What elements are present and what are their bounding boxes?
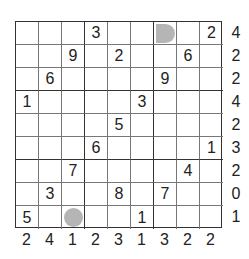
grid-cell-r4-c9[interactable] [200,91,223,114]
grid-cell-r1-c7[interactable] [154,22,177,45]
grid-cell-r2-c3[interactable]: 9 [62,45,85,68]
grid-cell-r6-c3[interactable] [62,137,85,160]
grid-cell-r1-c4[interactable]: 3 [85,22,108,45]
grid-cell-r7-c1[interactable] [16,160,39,183]
grid-cell-r7-c5[interactable] [108,160,131,183]
grid-cell-r8-c7[interactable]: 7 [154,183,177,206]
grid-cell-r9-c6[interactable]: 1 [131,206,154,229]
row-clue-8: 0 [226,182,246,205]
grid-cell-r1-c8[interactable] [177,22,200,45]
grid-cell-r9-c5[interactable] [108,206,131,229]
grid-cell-r4-c7[interactable] [154,91,177,114]
column-clue-4: 2 [84,229,107,251]
grid-cell-r3-c5[interactable] [108,68,131,91]
grid-cell-r8-c9[interactable] [200,183,223,206]
grid-cell-r4-c1[interactable]: 1 [16,91,39,114]
gray-circle-marker [64,208,83,227]
grid-cell-r2-c2[interactable] [39,45,62,68]
grid-cell-r4-c4[interactable] [85,91,108,114]
column-clue-3: 1 [61,229,84,251]
grid-cell-r1-c5[interactable] [108,22,131,45]
grid-cell-r3-c7[interactable]: 9 [154,68,177,91]
grid-cell-r4-c6[interactable]: 3 [131,91,154,114]
grid-cell-r5-c6[interactable] [131,114,154,137]
grid-cell-r7-c9[interactable] [200,160,223,183]
grid-cell-r2-c6[interactable] [131,45,154,68]
grid-cell-r1-c2[interactable] [39,22,62,45]
grid-cell-r9-c2[interactable] [39,206,62,229]
grid-cell-r8-c5[interactable]: 8 [108,183,131,206]
grid-cell-r5-c1[interactable] [16,114,39,137]
grid-cell-r2-c9[interactable] [200,45,223,68]
grid-cell-r6-c5[interactable] [108,137,131,160]
column-clue-9: 2 [199,229,222,251]
row-clues: 422423201 [226,21,246,228]
column-clue-1: 2 [15,229,38,251]
grid-cell-r1-c6[interactable] [131,22,154,45]
grid-cell-r8-c2[interactable]: 3 [39,183,62,206]
grid-cell-r5-c9[interactable] [200,114,223,137]
grid-cell-r3-c8[interactable] [177,68,200,91]
grid-cell-r5-c3[interactable] [62,114,85,137]
grid-cell-r2-c7[interactable] [154,45,177,68]
grid-cell-r2-c1[interactable] [16,45,39,68]
row-clue-2: 2 [226,44,246,67]
grid-cell-r7-c3[interactable]: 7 [62,160,85,183]
grid-cell-r8-c6[interactable] [131,183,154,206]
grid-cell-r9-c4[interactable] [85,206,108,229]
grid-cell-r5-c8[interactable] [177,114,200,137]
grid-cell-r9-c8[interactable] [177,206,200,229]
grid-cell-r8-c8[interactable] [177,183,200,206]
grid-cell-r1-c3[interactable] [62,22,85,45]
grid-cell-r6-c7[interactable] [154,137,177,160]
grid-cell-r2-c5[interactable]: 2 [108,45,131,68]
grid-cell-r7-c7[interactable] [154,160,177,183]
row-clue-3: 2 [226,67,246,90]
column-clue-8: 2 [176,229,199,251]
row-clue-9: 1 [226,205,246,228]
grid-cell-r8-c3[interactable] [62,183,85,206]
grid-cell-r2-c8[interactable]: 6 [177,45,200,68]
column-clue-6: 1 [130,229,153,251]
grid-cell-r5-c7[interactable] [154,114,177,137]
grid-cell-r6-c4[interactable]: 6 [85,137,108,160]
row-clue-7: 2 [226,159,246,182]
grid-cell-r8-c1[interactable] [16,183,39,206]
grid-cell-r5-c4[interactable] [85,114,108,137]
row-clue-4: 4 [226,90,246,113]
grid-cell-r6-c1[interactable] [16,137,39,160]
grid-cell-r3-c4[interactable] [85,68,108,91]
grid-cell-r8-c4[interactable] [85,183,108,206]
sudoku-grid: 3292669135617438751 [15,21,222,228]
grid-cell-r7-c4[interactable] [85,160,108,183]
grid-cell-r9-c3[interactable] [62,206,85,229]
grid-cell-r6-c9[interactable]: 1 [200,137,223,160]
grid-cell-r6-c8[interactable] [177,137,200,160]
grid-cell-r1-c1[interactable] [16,22,39,45]
grid-cell-r7-c6[interactable] [131,160,154,183]
row-clue-6: 3 [226,136,246,159]
grid-cell-r6-c2[interactable] [39,137,62,160]
column-clue-7: 3 [153,229,176,251]
grid-cell-r7-c8[interactable]: 4 [177,160,200,183]
grid-cell-r4-c3[interactable] [62,91,85,114]
grid-cell-r4-c5[interactable] [108,91,131,114]
grid-cell-r6-c6[interactable] [131,137,154,160]
grid-cell-r2-c4[interactable] [85,45,108,68]
grid-cell-r3-c9[interactable] [200,68,223,91]
grid-cell-r5-c5[interactable]: 5 [108,114,131,137]
grid-cell-r4-c2[interactable] [39,91,62,114]
grid-cell-r5-c2[interactable] [39,114,62,137]
column-clue-2: 4 [38,229,61,251]
grid-cell-r9-c7[interactable] [154,206,177,229]
column-clue-5: 3 [107,229,130,251]
grid-cell-r3-c1[interactable] [16,68,39,91]
grid-cell-r3-c3[interactable] [62,68,85,91]
grid-cell-r3-c6[interactable] [131,68,154,91]
grid-cell-r1-c9[interactable]: 2 [200,22,223,45]
grid-cell-r9-c9[interactable] [200,206,223,229]
grid-cell-r3-c2[interactable]: 6 [39,68,62,91]
grid-cell-r4-c8[interactable] [177,91,200,114]
grid-cell-r9-c1[interactable]: 5 [16,206,39,229]
grid-cell-r7-c2[interactable] [39,160,62,183]
